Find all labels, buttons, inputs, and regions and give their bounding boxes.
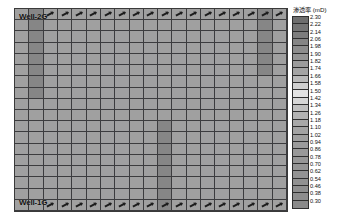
heatmap-cell	[172, 9, 186, 20]
heatmap-cell	[29, 43, 43, 54]
colorbar-tick-label: 1.10	[310, 124, 321, 130]
arrow-icon	[204, 202, 211, 207]
heatmap-cell	[158, 20, 172, 31]
heatmap-cell	[230, 189, 244, 200]
heatmap-cell	[187, 43, 201, 54]
heatmap-cell	[29, 76, 43, 87]
heatmap-cell	[101, 166, 115, 177]
heatmap-cell	[144, 31, 158, 42]
heatmap-cell	[201, 121, 215, 132]
heatmap-cell	[172, 88, 186, 99]
heatmap-cell	[72, 9, 86, 20]
heatmap-cell	[172, 20, 186, 31]
heatmap-cell	[273, 31, 287, 42]
heatmap-cell	[101, 43, 115, 54]
heatmap-cell	[58, 99, 72, 110]
heatmap-cell	[230, 121, 244, 132]
heatmap-cell	[230, 88, 244, 99]
colorbar-tick-label: 1.82	[310, 58, 321, 64]
heatmap-cell	[101, 65, 115, 76]
heatmap-cell	[101, 121, 115, 132]
heatmap-cell	[244, 20, 258, 31]
heatmap-cell	[258, 99, 272, 110]
heatmap-cell	[15, 20, 29, 31]
arrow-icon	[233, 202, 240, 207]
heatmap-cell	[130, 43, 144, 54]
heatmap-cell	[201, 144, 215, 155]
heatmap-cell	[172, 31, 186, 42]
colorbar-swatch	[293, 201, 308, 208]
colorbar-swatch	[293, 76, 308, 83]
heatmap-cell	[101, 132, 115, 143]
heatmap-cell	[58, 20, 72, 31]
heatmap-cell	[172, 144, 186, 155]
heatmap-cell	[215, 9, 229, 20]
heatmap-cell	[273, 132, 287, 143]
heatmap-grid	[15, 9, 287, 211]
heatmap-cell	[215, 110, 229, 121]
heatmap-cell	[15, 88, 29, 99]
heatmap-cell	[258, 189, 272, 200]
heatmap-cell	[144, 65, 158, 76]
heatmap-cell	[172, 200, 186, 211]
colorbar-swatch	[293, 179, 308, 186]
heatmap-cell	[201, 88, 215, 99]
arrow-icon	[147, 202, 154, 207]
heatmap-cell	[273, 54, 287, 65]
heatmap-cell	[101, 200, 115, 211]
heatmap-cell	[29, 20, 43, 31]
heatmap-cell	[230, 166, 244, 177]
heatmap-cell	[130, 54, 144, 65]
heatmap-cell	[215, 144, 229, 155]
heatmap-cell	[87, 20, 101, 31]
heatmap-cell	[72, 132, 86, 143]
heatmap-cell	[158, 88, 172, 99]
arrow-icon	[147, 12, 154, 17]
heatmap-cell	[244, 88, 258, 99]
heatmap-cell	[130, 144, 144, 155]
heatmap-cell	[172, 189, 186, 200]
heatmap-cell	[215, 132, 229, 143]
heatmap-cell	[44, 76, 58, 87]
arrow-icon	[90, 12, 97, 17]
arrow-icon	[190, 202, 197, 207]
heatmap-cell	[244, 31, 258, 42]
heatmap-cell	[87, 121, 101, 132]
colorbar-swatch	[293, 17, 308, 24]
heatmap-cell	[273, 155, 287, 166]
heatmap-cell	[258, 132, 272, 143]
heatmap-cell	[215, 177, 229, 188]
heatmap-cell	[158, 31, 172, 42]
heatmap-cell	[144, 43, 158, 54]
heatmap-cell	[115, 155, 129, 166]
heatmap-cell	[244, 43, 258, 54]
heatmap-cell	[230, 65, 244, 76]
heatmap-cell	[230, 43, 244, 54]
heatmap-cell	[201, 200, 215, 211]
heatmap-figure: Well-2G Well-1G 渗透率 (mD) 2.302.222.142.0…	[0, 0, 344, 220]
heatmap-cell	[15, 144, 29, 155]
heatmap-cell	[130, 110, 144, 121]
heatmap-cell	[158, 144, 172, 155]
heatmap-cell	[87, 76, 101, 87]
heatmap-cell	[87, 200, 101, 211]
arrow-icon	[61, 202, 68, 207]
colorbar-tick-label: 0.30	[310, 198, 321, 204]
heatmap-cell	[101, 20, 115, 31]
colorbar-swatch	[293, 142, 308, 149]
heatmap-cell	[230, 200, 244, 211]
arrow-icon	[118, 12, 125, 17]
heatmap-cell	[101, 110, 115, 121]
arrow-icon	[261, 12, 268, 17]
heatmap-cell	[215, 20, 229, 31]
heatmap-cell	[15, 110, 29, 121]
arrow-icon	[247, 202, 254, 207]
heatmap-cell	[201, 177, 215, 188]
colorbar-tick-label: 0.86	[310, 146, 321, 152]
heatmap-cell	[258, 200, 272, 211]
heatmap-cell	[144, 88, 158, 99]
heatmap-cell	[15, 54, 29, 65]
heatmap-cell	[44, 54, 58, 65]
heatmap-cell	[172, 166, 186, 177]
colorbar-swatch	[293, 90, 308, 97]
